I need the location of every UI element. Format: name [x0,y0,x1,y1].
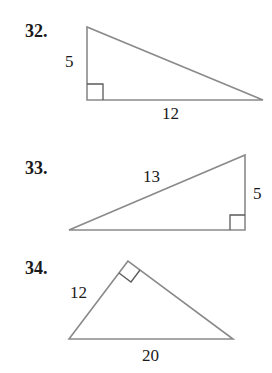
problem-number-32: 32. [25,21,48,42]
triangle-32 [87,27,263,100]
label-32-left-leg: 5 [65,52,74,72]
right-angle-marker [230,215,245,230]
right-angle-marker [87,84,103,100]
label-32-bottom-leg: 12 [162,104,179,124]
triangle-34 [69,261,233,339]
problem-number-33: 33. [25,158,48,179]
right-angle-marker [119,270,140,282]
problem-number-34: 34. [25,258,48,279]
triangles-diagram [0,0,272,373]
label-34-left-leg: 12 [70,283,87,303]
label-33-hypotenuse: 13 [143,167,160,187]
label-33-right-leg: 5 [253,184,262,204]
label-34-hypotenuse: 20 [142,346,159,366]
